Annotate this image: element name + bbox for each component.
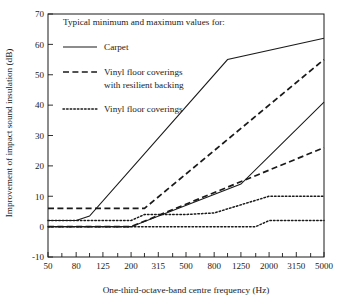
x-tick-label: 125 (96, 261, 110, 271)
data-series-lines (48, 38, 324, 226)
legend-label-vinyl-resilient-line2: with resilient backing (104, 80, 184, 90)
x-tick-label: 315 (152, 261, 166, 271)
legend-title: Typical minimum and maximum values for: (63, 17, 225, 27)
x-axis-tick-labels: 50801252003155008001250200031505000 (44, 261, 334, 271)
x-tick-label: 1250 (232, 261, 251, 271)
y-axis-title: Improvement of impact sound insulation (… (4, 49, 14, 218)
x-tick-label: 500 (179, 261, 193, 271)
chart-figure: 706050403020100-10 508012520031550080012… (0, 0, 346, 304)
y-tick-label: 0 (40, 222, 45, 232)
y-tick-label: 60 (35, 40, 45, 50)
x-axis-title: One-third-octave-band centre frequency (… (103, 285, 270, 295)
y-tick-label: 70 (35, 9, 45, 19)
y-tick-label: 30 (35, 131, 45, 141)
x-tick-label: 5000 (315, 261, 334, 271)
legend-label-vinyl-resilient: Vinyl floor coverings (104, 67, 183, 77)
line-chart: 706050403020100-10 508012520031550080012… (0, 0, 346, 304)
x-tick-label: 50 (44, 261, 54, 271)
y-tick-label: 20 (35, 161, 45, 171)
chart-legend: Typical minimum and maximum values for: … (63, 17, 225, 114)
y-tick-label: 50 (35, 70, 45, 80)
x-axis-ticks (48, 252, 324, 257)
x-tick-label: 3150 (287, 261, 306, 271)
legend-label-vinyl: Vinyl floor coverings (104, 104, 183, 114)
series-line-0 (48, 38, 324, 220)
series-line-2 (48, 60, 324, 209)
y-tick-label: 10 (35, 192, 45, 202)
x-tick-label: 800 (207, 261, 221, 271)
x-tick-label: 2000 (260, 261, 279, 271)
y-tick-label: 40 (35, 100, 45, 110)
y-axis-tick-labels: 706050403020100-10 (32, 9, 45, 262)
x-tick-label: 200 (124, 261, 138, 271)
x-tick-label: 80 (72, 261, 82, 271)
legend-label-carpet: Carpet (104, 42, 129, 52)
series-line-5 (48, 221, 324, 227)
series-line-3 (48, 148, 324, 227)
